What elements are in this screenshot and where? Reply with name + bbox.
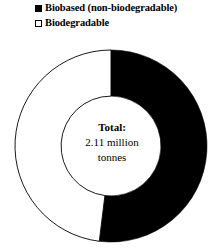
center-total-units: tonnes [62, 150, 162, 165]
center-total-value: 2.11 million [62, 135, 162, 150]
center-total-caption: Total: [62, 120, 162, 135]
donut-center-label: Total: 2.11 million tonnes [62, 120, 162, 165]
